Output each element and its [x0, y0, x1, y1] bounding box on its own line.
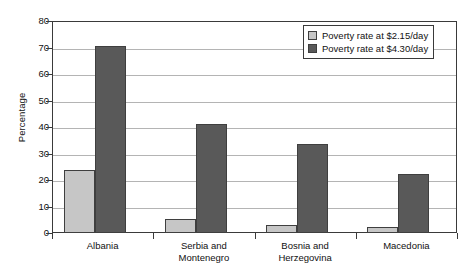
x-cat-label-line: Bosnia and: [250, 240, 360, 252]
y-tick-label: 80: [9, 16, 49, 26]
bar: [266, 225, 297, 233]
legend-swatch-icon: [308, 44, 317, 53]
x-cat-label-line: Albania: [48, 240, 158, 252]
bar: [64, 170, 95, 233]
bar: [95, 46, 126, 233]
x-cat-label-line: Montenegro: [149, 252, 259, 264]
bar: [297, 144, 328, 233]
bar: [196, 124, 227, 233]
y-tick-label: 40: [9, 122, 49, 132]
legend-label: Poverty rate at $2.15/day: [322, 31, 428, 41]
legend-item: Poverty rate at $2.15/day: [308, 29, 428, 42]
x-tick-mark: [457, 233, 458, 239]
legend-item: Poverty rate at $4.30/day: [308, 42, 428, 55]
x-category-label: Albania: [48, 240, 158, 252]
y-tick-label: 50: [9, 96, 49, 106]
x-category-label: Serbia andMontenegro: [149, 240, 259, 263]
y-tick-label: 70: [9, 43, 49, 53]
bar-chart: Percentage 01020304050607080 AlbaniaSerb…: [0, 0, 462, 279]
legend-label: Poverty rate at $4.30/day: [322, 44, 428, 54]
bar: [367, 227, 398, 233]
y-tick-label: 10: [9, 202, 49, 212]
x-tick-mark: [255, 233, 256, 239]
x-category-label: Bosnia andHerzegovina: [250, 240, 360, 263]
bar: [165, 219, 196, 233]
x-cat-label-line: Macedonia: [351, 240, 461, 252]
y-tick-label: 0: [9, 228, 49, 238]
y-tick-label: 20: [9, 175, 49, 185]
x-category-label: Macedonia: [351, 240, 461, 252]
y-tick-label: 30: [9, 149, 49, 159]
x-tick-mark: [356, 233, 357, 239]
x-cat-label-line: Serbia and: [149, 240, 259, 252]
legend-swatch-icon: [308, 31, 317, 40]
legend: Poverty rate at $2.15/day Poverty rate a…: [303, 25, 434, 59]
x-tick-mark: [52, 233, 53, 239]
bar: [398, 174, 429, 233]
y-tick-label: 60: [9, 69, 49, 79]
x-cat-label-line: Herzegovina: [250, 252, 360, 264]
x-tick-mark: [153, 233, 154, 239]
